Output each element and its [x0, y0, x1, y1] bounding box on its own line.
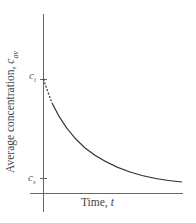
curve-solid-segment: [52, 103, 182, 182]
curve-dashed-segment: [44, 79, 53, 103]
x-axis-label: Time, t: [81, 196, 114, 208]
tick-label-ci: ci: [29, 69, 36, 84]
chart-plot: [0, 0, 196, 223]
y-axis-label: Average concentration, cav: [4, 51, 19, 173]
tick-label-cs: cs: [28, 171, 36, 186]
